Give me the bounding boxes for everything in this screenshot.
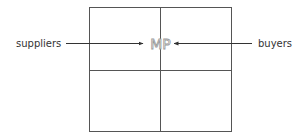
- matrix-grid: [90, 8, 232, 132]
- diagram-canvas: suppliers MP buyers: [0, 0, 306, 139]
- center-label: MP: [150, 36, 171, 52]
- buyers-label: buyers: [258, 38, 292, 49]
- suppliers-label: suppliers: [16, 38, 61, 49]
